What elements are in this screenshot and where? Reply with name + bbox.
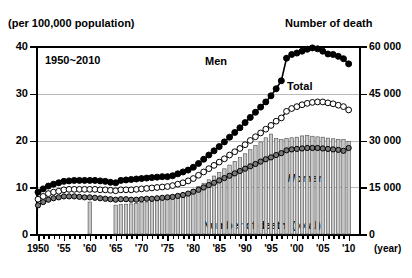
- data-point: [232, 129, 238, 135]
- data-point: [227, 173, 232, 178]
- xtick-2007: [333, 235, 335, 239]
- xtick-1969: [136, 235, 138, 239]
- xtick-1955: [64, 235, 66, 241]
- xtick-1968: [131, 235, 133, 239]
- data-point: [103, 196, 108, 201]
- data-point: [201, 156, 207, 162]
- bar: [161, 200, 164, 234]
- xtick-1975: [167, 235, 169, 241]
- bar: [140, 203, 143, 234]
- data-point: [294, 146, 299, 151]
- data-point: [253, 134, 259, 140]
- xtick-1978: [183, 235, 185, 239]
- data-point: [211, 148, 217, 154]
- xtick-1973: [157, 235, 159, 239]
- data-point: [278, 78, 284, 84]
- data-point: [56, 195, 61, 200]
- bar: [331, 139, 334, 234]
- xlabel-1950: 1950: [27, 243, 49, 254]
- data-point: [299, 146, 304, 151]
- data-point: [118, 197, 123, 202]
- data-point: [320, 146, 325, 151]
- xtick-1989: [240, 235, 242, 239]
- xtick-1977: [178, 235, 180, 239]
- data-point: [144, 196, 149, 201]
- xtick-1993: [261, 235, 263, 239]
- xtick-1953: [54, 235, 56, 239]
- data-point: [87, 195, 92, 200]
- xtick-1959: [85, 235, 87, 239]
- xtick-1984: [214, 235, 216, 239]
- xtick-2002: [307, 235, 309, 239]
- xlabel-1970: '70: [135, 243, 149, 254]
- xtick-1965: [116, 235, 118, 241]
- data-point: [211, 180, 216, 185]
- data-point: [273, 86, 279, 92]
- data-point: [242, 142, 248, 148]
- xtick-1997: [281, 235, 283, 239]
- data-point: [268, 155, 273, 160]
- bar: [192, 190, 195, 234]
- bar: [186, 192, 189, 234]
- xtick-1962: [100, 235, 102, 239]
- bar: [181, 194, 184, 234]
- data-point: [346, 61, 352, 67]
- data-point: [247, 138, 253, 144]
- data-point: [346, 145, 351, 150]
- data-point: [274, 152, 279, 157]
- xtick-1996: [276, 235, 278, 239]
- bar: [129, 204, 132, 234]
- data-point: [61, 194, 66, 199]
- data-point: [196, 161, 202, 167]
- data-point: [331, 147, 336, 152]
- data-point: [263, 126, 269, 132]
- data-point: [77, 194, 82, 199]
- xtick-1979: [188, 235, 190, 239]
- bar: [259, 142, 262, 234]
- xtick-1999: [292, 235, 294, 239]
- xtick-1967: [126, 235, 128, 239]
- bar: [249, 150, 252, 234]
- bar: [114, 205, 117, 234]
- xtick-1991: [250, 235, 252, 239]
- xtick-1986: [224, 235, 226, 239]
- data-point: [336, 147, 341, 152]
- data-point: [108, 197, 113, 202]
- bar: [347, 141, 350, 234]
- data-point: [51, 196, 56, 201]
- data-point: [149, 196, 154, 201]
- data-point: [232, 171, 237, 176]
- xtick-1972: [152, 235, 154, 239]
- data-point: [98, 196, 103, 201]
- data-point: [113, 197, 118, 202]
- xtick-1956: [69, 235, 71, 239]
- data-point: [278, 115, 284, 121]
- bar: [316, 137, 319, 234]
- data-point: [252, 109, 258, 115]
- data-point: [170, 194, 175, 199]
- data-point: [186, 191, 191, 196]
- data-point: [82, 195, 87, 200]
- data-point: [310, 145, 315, 150]
- bar: [176, 196, 179, 234]
- data-point: [129, 197, 134, 202]
- data-point: [237, 146, 243, 152]
- xtick-2009: [343, 235, 345, 239]
- bar: [171, 197, 174, 234]
- data-point: [315, 145, 320, 150]
- xtick-1988: [235, 235, 237, 239]
- xtick-2000: [297, 235, 299, 241]
- xlabel-2005: '05: [316, 243, 330, 254]
- data-point: [35, 203, 40, 208]
- bar: [119, 205, 122, 234]
- bar: [197, 187, 200, 234]
- xtick-1982: [204, 235, 206, 239]
- bar: [155, 200, 158, 234]
- data-point: [237, 168, 242, 173]
- data-point: [191, 189, 196, 194]
- data-point: [217, 178, 222, 183]
- xtick-1980: [193, 235, 195, 241]
- data-point: [268, 123, 274, 129]
- data-point: [258, 104, 264, 110]
- data-point: [92, 195, 97, 200]
